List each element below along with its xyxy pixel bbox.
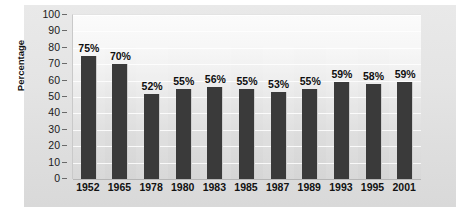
- bar-value-label: 58%: [358, 70, 390, 82]
- y-tick-mark: [62, 145, 67, 146]
- bar-value-label: 56%: [199, 73, 231, 85]
- bar[interactable]: [81, 56, 97, 179]
- bar-value-label: 55%: [168, 75, 200, 87]
- y-tick-label: 40: [48, 106, 60, 118]
- y-tick-mark: [62, 178, 67, 179]
- y-tick-mark: [62, 162, 67, 163]
- bar[interactable]: [207, 87, 223, 179]
- y-tick-mark: [62, 47, 67, 48]
- bar[interactable]: [176, 89, 192, 179]
- y-tick-label: 0: [54, 172, 60, 184]
- y-tick-mark: [62, 30, 67, 31]
- y-tick-label: 80: [48, 41, 60, 53]
- y-tick-label: 70: [48, 57, 60, 69]
- bar-value-label: 75%: [73, 42, 105, 54]
- y-tick-label: 20: [48, 139, 60, 151]
- bar[interactable]: [271, 92, 287, 179]
- y-tick-label: 50: [48, 90, 60, 102]
- bar[interactable]: [112, 64, 128, 179]
- y-tick-mark: [62, 112, 67, 113]
- bar[interactable]: [397, 82, 413, 179]
- chart-figure: Percentage 1009080706050403020100 75%70%…: [0, 0, 466, 212]
- y-tick-mark: [62, 14, 67, 15]
- bar-value-label: 52%: [136, 80, 168, 92]
- bar-value-label: 70%: [104, 50, 136, 62]
- y-tick-label: 10: [48, 156, 60, 168]
- y-tick-mark: [62, 129, 67, 130]
- x-axis-tick-labels: 1952196519781980198319851987198919931995…: [72, 181, 420, 201]
- x-tick-label: 2001: [382, 181, 426, 193]
- bar[interactable]: [239, 89, 255, 179]
- y-tick-label: 100: [42, 8, 60, 20]
- y-tick-label: 90: [48, 24, 60, 36]
- bar[interactable]: [334, 82, 350, 179]
- bar[interactable]: [366, 84, 382, 179]
- bar-value-label: 55%: [231, 75, 263, 87]
- plot-area: 75%70%52%55%56%55%53%55%59%58%59%: [72, 14, 421, 179]
- gridline: [73, 179, 421, 180]
- bar[interactable]: [144, 94, 160, 179]
- bar-value-label: 59%: [326, 68, 358, 80]
- y-tick-mark: [62, 96, 67, 97]
- y-tick-mark: [62, 63, 67, 64]
- bar-value-label: 55%: [294, 75, 326, 87]
- y-axis-title: Percentage: [15, 6, 26, 126]
- bar-value-label: 59%: [389, 68, 421, 80]
- y-tick-label: 30: [48, 123, 60, 135]
- y-axis-tick-labels: 1009080706050403020100: [28, 10, 68, 182]
- y-tick-label: 60: [48, 74, 60, 86]
- y-tick-mark: [62, 80, 67, 81]
- bar-value-label: 53%: [263, 78, 295, 90]
- bar[interactable]: [302, 89, 318, 179]
